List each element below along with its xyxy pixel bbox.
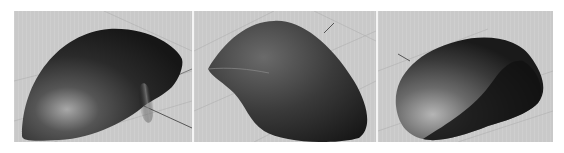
mouse-shell <box>22 29 182 141</box>
mouse-render-view-2 <box>194 11 376 142</box>
mouse-render-view-1 <box>14 11 192 142</box>
mouse-render-view-3 <box>378 11 553 142</box>
axis-line <box>398 54 410 61</box>
viewport-panel-1 <box>14 11 192 142</box>
viewport-panel-2 <box>194 11 376 142</box>
figure-strip <box>14 11 553 142</box>
axis-line <box>324 23 334 33</box>
viewport-panel-3 <box>378 11 553 142</box>
mouse-shell <box>208 21 367 142</box>
